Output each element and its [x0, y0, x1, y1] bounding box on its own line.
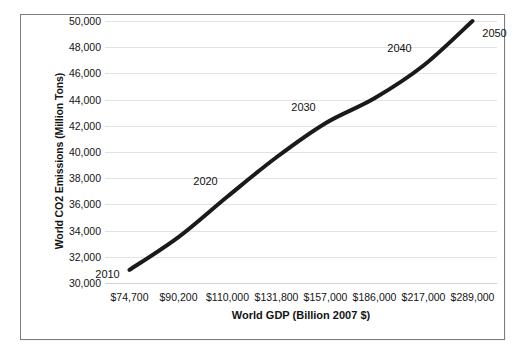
chart-frame: World CO2 Emissions (Million Tons) 50,00… [20, 14, 505, 340]
data-point-label: 2030 [291, 101, 315, 113]
x-axis-tick-label: $90,200 [160, 291, 198, 303]
gridline [105, 283, 497, 284]
line-series [105, 21, 497, 283]
y-axis-tick-label: 32,000 [45, 251, 101, 263]
y-axis-tick-label: 46,000 [45, 67, 101, 79]
x-axis-tick-label: $217,000 [402, 291, 446, 303]
x-axis-tick-labels: $74,700$90,200$110,000$131,800$157,000$1… [105, 291, 497, 307]
x-axis-title: World GDP (Billion 2007 $) [105, 309, 497, 321]
plot-area: 20102020203020402050 [105, 21, 497, 283]
y-axis-tick-label: 36,000 [45, 198, 101, 210]
data-point-label: 2050 [482, 27, 506, 39]
data-point-label: 2020 [193, 175, 217, 187]
y-axis-tick-label: 48,000 [45, 41, 101, 53]
data-point-label: 2010 [95, 268, 119, 280]
y-axis-tick-label: 40,000 [45, 146, 101, 158]
y-axis-tick-label: 30,000 [45, 277, 101, 289]
x-axis-tick-label: $74,700 [111, 291, 149, 303]
x-axis-tick-label: $289,000 [451, 291, 495, 303]
series-path [130, 21, 473, 270]
y-axis-tick-label: 38,000 [45, 172, 101, 184]
x-axis-tick-label: $157,000 [304, 291, 348, 303]
y-axis-tick-label: 34,000 [45, 225, 101, 237]
y-axis-tick-labels: 50,00048,00046,00044,00042,00040,00038,0… [45, 21, 101, 283]
y-axis-tick-label: 42,000 [45, 120, 101, 132]
y-axis-tick-label: 50,000 [45, 15, 101, 27]
x-axis-tick-label: $131,800 [255, 291, 299, 303]
y-axis-tick-label: 44,000 [45, 94, 101, 106]
data-point-label: 2040 [387, 42, 411, 54]
x-axis-tick-label: $110,000 [206, 291, 249, 303]
x-axis-tick-label: $186,000 [353, 291, 397, 303]
